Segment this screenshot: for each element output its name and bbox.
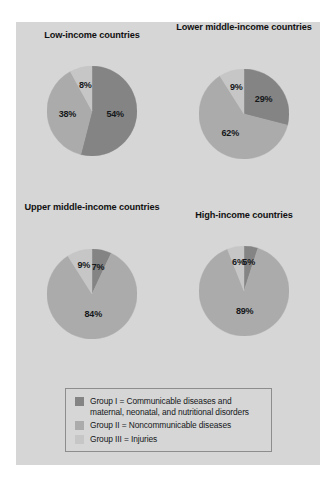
chart-title-0: Low-income countries	[16, 30, 168, 42]
pie-svg-1	[199, 69, 289, 159]
legend-item-group3: Group III = Injuries	[75, 434, 157, 445]
pie-slice-label-0-0: 54%	[106, 109, 123, 119]
pie-slice-label-3-1: 89%	[236, 306, 253, 316]
pie-chart-lower-middle-income: Lower middle-income countries 29%62%9%	[168, 22, 320, 198]
pie-slice-label-2-0: 7%	[92, 262, 105, 272]
pie-graphic-3: 5%89%6%	[199, 246, 289, 336]
pie-slice-label-1-1: 62%	[222, 128, 239, 138]
pie-slice-label-3-2: 6%	[232, 257, 245, 267]
chart-panel: Low-income countries 54%38%8% Lower midd…	[16, 22, 320, 465]
pie-slice-label-2-1: 84%	[85, 309, 102, 319]
pie-chart-low-income: Low-income countries 54%38%8%	[16, 30, 168, 206]
pie-slice-label-2-2: 9%	[77, 260, 90, 270]
figure-canvas: Low-income countries 54%38%8% Lower midd…	[0, 0, 335, 480]
pie-slice-label-0-1: 38%	[59, 109, 76, 119]
chart-title-3: High-income countries	[168, 210, 320, 222]
legend-item-group1: Group I = Communicable diseases and mate…	[75, 396, 249, 417]
pie-slice-label-0-2: 8%	[79, 80, 92, 90]
legend-swatch-group2	[75, 421, 84, 430]
legend-swatch-group3	[75, 435, 84, 444]
pie-graphic-1: 29%62%9%	[199, 69, 289, 159]
chart-legend: Group I = Communicable diseases and mate…	[65, 388, 272, 452]
pie-slice-label-1-2: 9%	[230, 82, 243, 92]
legend-swatch-group1	[75, 397, 84, 406]
legend-label-group1: Group I = Communicable diseases and mate…	[90, 396, 249, 417]
legend-label-group2: Group II = Noncommunicable diseases	[90, 420, 231, 431]
pie-graphic-2: 7%84%9%	[47, 249, 137, 339]
chart-title-1: Lower middle-income countries	[168, 22, 320, 34]
legend-label-group3: Group III = Injuries	[90, 434, 157, 445]
pie-graphic-0: 54%38%8%	[47, 66, 137, 156]
legend-item-group2: Group II = Noncommunicable diseases	[75, 420, 231, 431]
chart-title-2: Upper middle-income countries	[16, 202, 168, 214]
pie-chart-upper-middle-income: Upper middle-income countries 7%84%9%	[16, 202, 168, 378]
pie-slice-label-1-0: 29%	[255, 94, 272, 104]
pie-chart-high-income: High-income countries 5%89%6%	[168, 210, 320, 386]
